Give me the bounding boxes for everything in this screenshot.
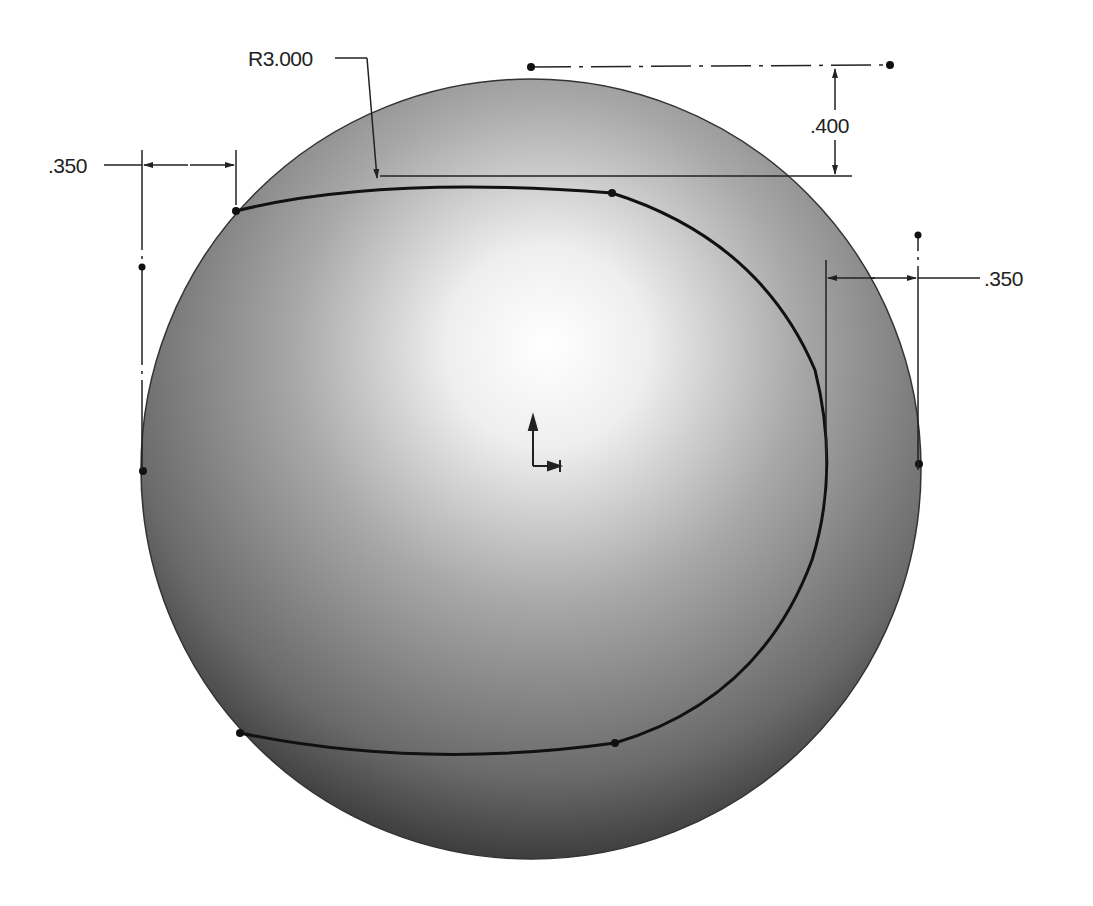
dimension-label-left: .350	[48, 154, 87, 177]
dimension-label-right: .350	[984, 267, 1023, 290]
cad-sketch-canvas: .400 R3.000 .350 .350	[0, 0, 1093, 906]
dimension-label-top: .400	[810, 114, 849, 137]
dimension-label-radius: R3.000	[248, 47, 313, 70]
sphere-body	[141, 79, 921, 859]
